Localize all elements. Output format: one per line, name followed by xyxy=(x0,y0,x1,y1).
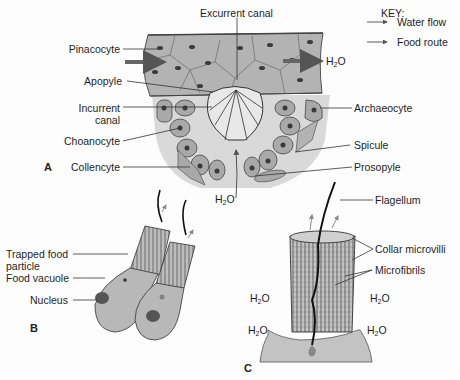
panel-b-illustration xyxy=(95,190,195,340)
h2o-label-right-upper: H2O xyxy=(370,292,390,308)
archaeocyte-label: Archaeocyte xyxy=(354,102,412,114)
trapped-food-label-line2: particle xyxy=(6,260,40,272)
incurrent-canal-label-line1: Incurrent xyxy=(60,102,120,114)
food-vacuole-label: Food vacuole xyxy=(6,272,69,284)
trapped-food-label-line1: Trapped food xyxy=(6,248,68,260)
h2o-label-left-upper: H2O xyxy=(250,292,270,308)
h2o-label-left-lower: H2O xyxy=(248,324,268,340)
h2o-out-label: H2O xyxy=(326,55,346,71)
key-water-flow-label: Water flow xyxy=(397,16,446,28)
collencyte-label: Collencyte xyxy=(50,161,120,173)
h2o-label-right-lower: H2O xyxy=(367,324,387,340)
panel-a-label: A xyxy=(44,161,52,173)
pinacocyte-label: Pinacocyte xyxy=(60,43,120,55)
nucleus-label: Nucleus xyxy=(30,294,68,306)
prosopyle-label: Prosopyle xyxy=(354,161,401,173)
panel-c-label: C xyxy=(244,362,252,374)
panel-b-label: B xyxy=(30,322,38,334)
microfibrils-label: Microfibrils xyxy=(375,264,425,276)
diagram-artwork xyxy=(0,0,460,380)
choanocyte-label: Choanocyte xyxy=(50,135,120,147)
apopyle-label: Apopyle xyxy=(60,75,122,87)
collar-microvilli-label: Collar microvilli xyxy=(375,243,446,255)
spicule-label: Spicule xyxy=(354,139,388,151)
sponge-anatomy-diagram: KEY: Water flow Food route Excurrent can… xyxy=(0,0,460,380)
panel-c-illustration xyxy=(260,182,372,362)
panel-a-illustration xyxy=(125,33,330,198)
key-food-route-label: Food route xyxy=(397,36,448,48)
flagellum-label: Flagellum xyxy=(375,194,421,206)
h2o-in-label: H2O xyxy=(215,193,235,209)
incurrent-canal-label-line2: canal xyxy=(60,114,120,126)
excurrent-canal-label: Excurrent canal xyxy=(200,7,273,19)
